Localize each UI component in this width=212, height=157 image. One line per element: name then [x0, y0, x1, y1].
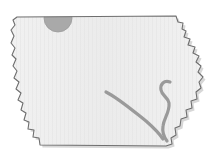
- map-figure: [0, 0, 212, 157]
- state-land-texture: [11, 16, 203, 146]
- iowa-map-svg: [0, 0, 212, 157]
